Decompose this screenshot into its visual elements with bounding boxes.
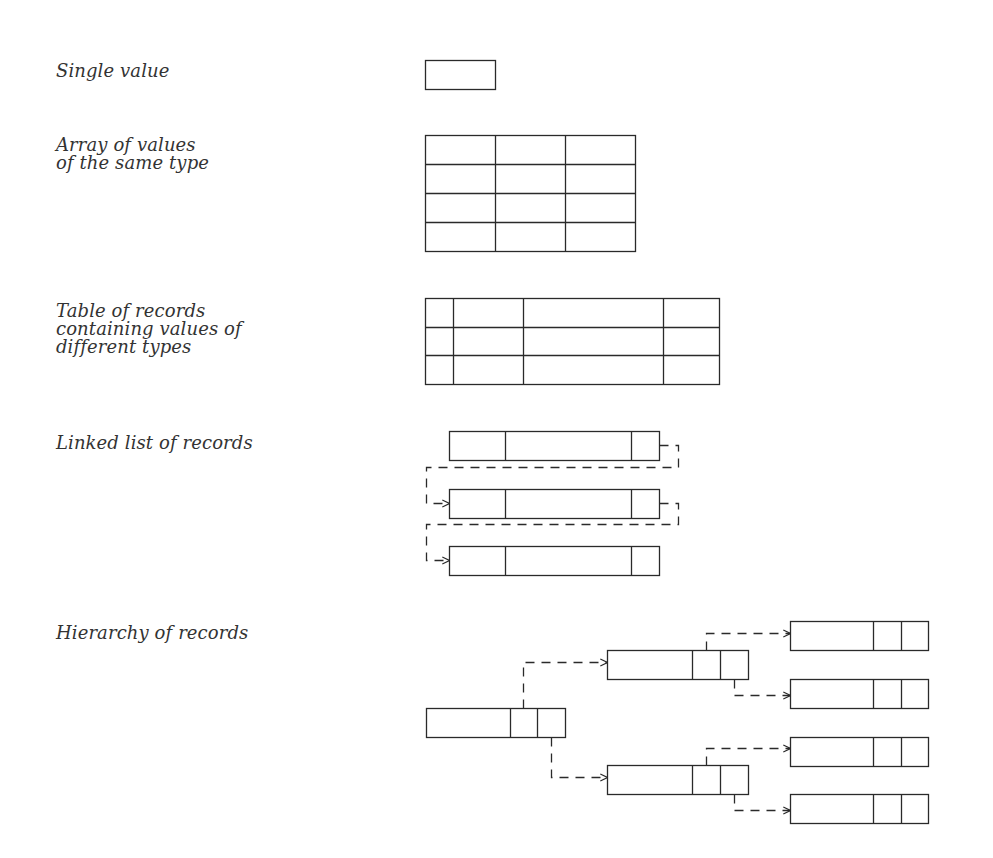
hierarchy-root <box>427 709 566 738</box>
linked-list <box>427 432 679 576</box>
hierarchy-leaf-4 <box>791 795 929 824</box>
linked-record-2 <box>450 490 660 519</box>
pointer-root-child-1 <box>524 663 608 709</box>
pointer-child2-leaf-4 <box>735 795 791 811</box>
linked-record-3 <box>450 547 660 576</box>
array-grid <box>426 136 636 252</box>
records-table <box>426 299 720 385</box>
hierarchy-leaf-1 <box>791 622 929 651</box>
hierarchy-tree <box>427 622 929 824</box>
pointer-child2-leaf-3 <box>707 749 791 766</box>
hierarchy-child-1 <box>608 651 749 680</box>
link-pointer-2 <box>427 504 679 561</box>
diagram-canvas <box>0 0 993 858</box>
pointer-child1-leaf-1 <box>707 634 791 651</box>
hierarchy-leaf-2 <box>791 680 929 709</box>
pointer-child1-leaf-2 <box>735 680 791 696</box>
link-pointer-1 <box>427 446 679 504</box>
single-value-box <box>426 61 496 90</box>
pointer-root-child-2 <box>552 738 608 778</box>
linked-record-1 <box>450 432 660 461</box>
hierarchy-leaf-3 <box>791 738 929 767</box>
hierarchy-child-2 <box>608 766 749 795</box>
